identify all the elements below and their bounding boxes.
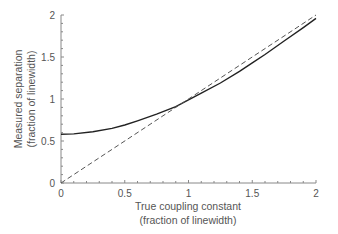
y-axis: 00.511.52	[41, 10, 64, 189]
y-axis-title: Measured separation	[12, 50, 24, 149]
y-tick-label: 0.5	[41, 136, 55, 147]
x-axis-subtitle: (fraction of linewidth)	[140, 214, 237, 226]
ideal-line	[61, 15, 316, 183]
x-axis: 00.511.52	[58, 180, 319, 199]
x-axis-title: True coupling constant	[135, 200, 241, 212]
chart: 00.511.52 00.511.52 True coupling consta…	[0, 0, 338, 234]
x-tick-label: 2	[313, 188, 319, 199]
y-axis-subtitle: (fraction of linewidth)	[25, 51, 37, 148]
y-tick-label: 2	[49, 10, 55, 21]
x-tick-label: 0.5	[118, 188, 132, 199]
x-tick-label: 1.5	[245, 188, 259, 199]
plot-lines	[61, 15, 316, 183]
x-tick-label: 0	[58, 188, 64, 199]
y-tick-label: 1	[49, 94, 55, 105]
y-tick-label: 1.5	[41, 52, 55, 63]
y-tick-label: 0	[49, 178, 55, 189]
x-tick-label: 1	[186, 188, 192, 199]
measured-curve	[61, 18, 316, 134]
